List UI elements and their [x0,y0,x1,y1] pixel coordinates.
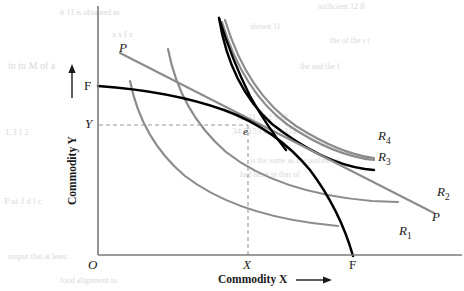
curve-label-r1-subscript: 1 [407,231,412,241]
price-line-label-top: P [119,41,127,54]
curve-r3-upper-branch [219,18,286,150]
curve-label-r2-subscript: 2 [445,192,450,202]
y-axis-title: Commodity Y [66,136,78,205]
y-intercept-label-f: F [84,79,91,92]
price-line-label-bottom: P [432,210,440,223]
x-axis-title: Commodity X [218,273,287,285]
curve-label-r3: R3 [378,150,391,167]
equilibrium-point-label: e [243,126,248,137]
transformation-curve-ff [98,86,353,256]
y-axis-arrow-icon [68,64,75,98]
curve-label-r4-base: R [378,128,386,143]
origin-label: O [88,258,97,271]
curve-label-r3-subscript: 3 [386,157,391,167]
economics-figure: sufficient 12 fl it 11 is obtained as sh… [0,0,464,291]
curve-label-r4-subscript: 4 [386,136,391,146]
curve-label-r2: R2 [437,185,450,202]
curve-label-r4: R4 [378,129,391,146]
curve-label-r1: R1 [399,224,412,241]
curve-r3 [219,18,374,170]
curve-r1 [130,81,338,226]
curve-label-r1-base: R [399,223,407,238]
y-tick-label: Y [85,117,92,130]
curve-label-r3-base: R [378,149,386,164]
x-axis-arrow-icon [296,276,332,283]
curve-r2 [168,49,398,202]
curve-label-r2-base: R [437,184,445,199]
x-tick-label: X [243,258,251,271]
x-intercept-label-f: F [349,258,356,271]
